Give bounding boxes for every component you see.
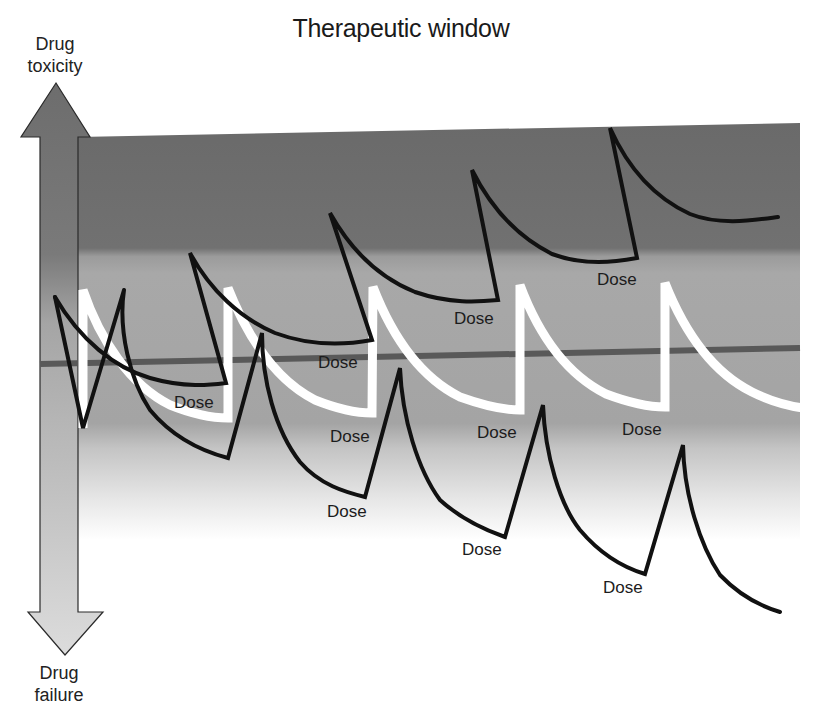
dose-label: Dose bbox=[174, 393, 214, 412]
dose-label: Dose bbox=[454, 309, 494, 328]
dose-label: Dose bbox=[318, 353, 358, 372]
dose-label: Dose bbox=[603, 578, 643, 597]
dose-label: Dose bbox=[477, 423, 517, 442]
dose-label: Dose bbox=[330, 427, 370, 446]
dose-label: Dose bbox=[462, 540, 502, 559]
dose-label: Dose bbox=[327, 502, 367, 521]
therapeutic-window-diagram: Dose Dose Dose Dose Dose Dose Dose Dose … bbox=[0, 0, 818, 725]
dose-label: Dose bbox=[597, 270, 637, 289]
dose-label: Dose bbox=[622, 420, 662, 439]
